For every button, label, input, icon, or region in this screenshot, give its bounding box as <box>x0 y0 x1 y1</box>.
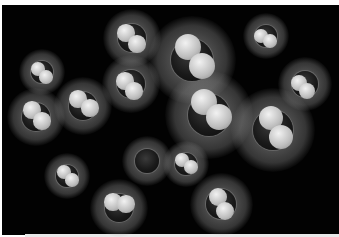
bottom-border <box>25 234 339 237</box>
hydrogen-atom <box>65 173 79 187</box>
hydrogen-atom <box>189 53 215 79</box>
hydrogen-atom <box>125 82 142 99</box>
hydrogen-atom <box>263 34 277 48</box>
hydrogen-atom <box>299 83 315 99</box>
molecule-12 <box>135 149 159 173</box>
hydrogen-atom <box>184 160 198 174</box>
hydrogen-atom <box>33 112 50 129</box>
hydrogen-atom <box>81 99 98 116</box>
hydrogen-atom <box>206 104 232 130</box>
hydrogen-atom <box>39 70 53 84</box>
hydrogen-atom <box>128 35 145 52</box>
hydrogen-atom <box>117 195 134 212</box>
